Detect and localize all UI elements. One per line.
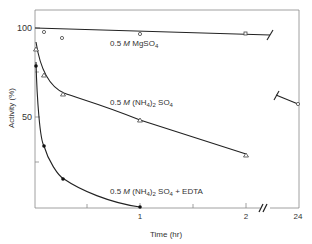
label-nh4-2so4: 0.5 M (NH4)2 SO4 (110, 98, 174, 108)
activity-chart: 100 50 1 2 24 Activity (%) Time (hr) (0, 0, 312, 244)
x-tick-1: 1 (138, 212, 143, 221)
y-tick-50: 50 (22, 112, 32, 122)
plot-frame (35, 10, 299, 208)
x-axis-label: Time (hr) (150, 230, 182, 239)
y-tick-100: 100 (17, 23, 32, 33)
x-tick-24: 24 (294, 212, 303, 221)
x-ticks (87, 203, 246, 208)
y-axis-label: Activity (%) (7, 88, 16, 128)
axis-break-icon (259, 204, 267, 212)
label-nh4-2so4-edta: 0.5 M (NH4)2 SO4 + EDTA (110, 187, 203, 197)
label-mgso4: 0.5 M MgSO4 (110, 39, 159, 49)
x-tick-2: 2 (244, 212, 249, 221)
